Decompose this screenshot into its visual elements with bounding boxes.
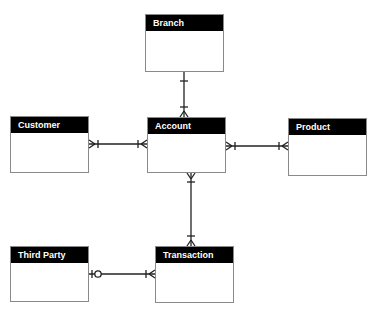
- rel-thirdparty-transaction[interactable]: [89, 270, 155, 278]
- entity-customer[interactable]: Customer: [10, 116, 89, 173]
- rel-branch-account[interactable]: [180, 72, 188, 117]
- entity-account[interactable]: Account: [147, 117, 226, 173]
- entity-branch[interactable]: Branch: [145, 14, 224, 72]
- entity-title: Customer: [11, 117, 88, 133]
- entity-third-party[interactable]: Third Party: [10, 246, 89, 302]
- rel-customer-account[interactable]: [89, 140, 147, 148]
- entity-title: Transaction: [156, 247, 233, 263]
- entity-title: Branch: [146, 15, 223, 31]
- entity-title: Product: [289, 119, 366, 135]
- entity-title: Account: [148, 118, 225, 134]
- rel-account-product[interactable]: [226, 142, 288, 150]
- entity-transaction[interactable]: Transaction: [155, 246, 234, 303]
- entity-product[interactable]: Product: [288, 118, 367, 176]
- rel-account-transaction[interactable]: [187, 173, 195, 246]
- entity-title: Third Party: [11, 247, 88, 263]
